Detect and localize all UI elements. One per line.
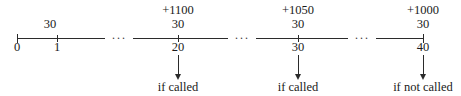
period-label-30: 30 — [292, 41, 305, 53]
coupon-label-40: 30 — [417, 18, 430, 30]
principal-label-30: +1050 — [282, 4, 314, 16]
axis-break-ellipsis-3: ··· — [348, 30, 376, 46]
call-note-20: if called — [158, 81, 199, 93]
cash-flow-timeline-figure: ··· ··· ··· 0 30 1 +1100 30 20 if called… — [0, 0, 461, 96]
period-label-40: 40 — [417, 41, 430, 53]
principal-label-40: +1000 — [407, 4, 439, 16]
period-label-20: 20 — [172, 41, 185, 53]
call-arrow-20 — [178, 55, 179, 75]
principal-label-20: +1100 — [162, 4, 194, 16]
axis-break-ellipsis-1: ··· — [105, 30, 133, 46]
coupon-label-30: 30 — [292, 18, 305, 30]
coupon-label-20: 30 — [172, 18, 185, 30]
call-note-30: if called — [278, 81, 319, 93]
period-label-0: 0 — [14, 41, 20, 53]
period-label-1: 1 — [54, 41, 60, 53]
axis-break-ellipsis-2: ··· — [228, 30, 256, 46]
maturity-arrow-40 — [423, 55, 424, 75]
maturity-note-40: if not called — [393, 81, 453, 93]
coupon-label-1: 30 — [44, 18, 57, 30]
call-arrow-30 — [298, 55, 299, 75]
